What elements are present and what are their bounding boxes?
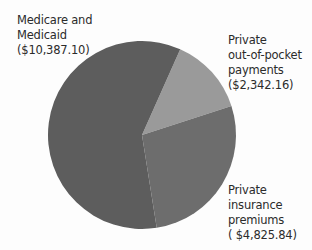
label-value: ( $4,825.84) — [228, 228, 297, 243]
label-line: Medicare and — [17, 13, 92, 28]
label-value: ($2,342.16) — [228, 78, 302, 93]
label-line: premiums — [228, 213, 297, 228]
chart-canvas: Medicare and Medicaid ($10,387.10) Priva… — [0, 0, 312, 250]
label-line: Private — [228, 183, 297, 198]
label-line: Medicaid — [17, 28, 92, 43]
label-medicare-and-medicaid: Medicare and Medicaid ($10,387.10) — [17, 13, 92, 58]
label-private-insurance-premiums: Private insurance premiums ( $4,825.84) — [228, 183, 297, 243]
label-line: payments — [228, 63, 302, 78]
label-line: Private — [228, 33, 302, 48]
label-value: ($10,387.10) — [17, 43, 92, 58]
label-line: out-of-pocket — [228, 48, 302, 63]
label-line: insurance — [228, 198, 297, 213]
label-private-out-of-pocket: Private out-of-pocket payments ($2,342.1… — [228, 33, 302, 93]
